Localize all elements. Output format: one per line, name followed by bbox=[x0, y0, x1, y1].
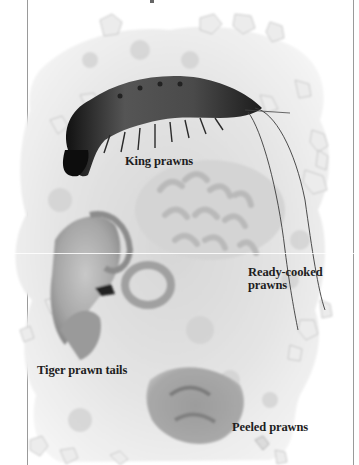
prawns-on-ice-photo bbox=[0, 0, 359, 465]
label-ready-cooked-prawns: Ready-cooked prawns bbox=[248, 266, 323, 292]
label-tiger-prawn-tails: Tiger prawn tails bbox=[37, 364, 127, 377]
scan-artifact-line bbox=[0, 253, 359, 254]
document-page: King prawns Ready-cooked prawns Tiger pr… bbox=[0, 0, 359, 465]
ready-cooked-prawns bbox=[135, 160, 285, 260]
label-ready-cooked-line2: prawns bbox=[248, 279, 323, 292]
label-king-prawns: King prawns bbox=[125, 155, 193, 168]
label-peeled-prawns: Peeled prawns bbox=[232, 421, 308, 434]
